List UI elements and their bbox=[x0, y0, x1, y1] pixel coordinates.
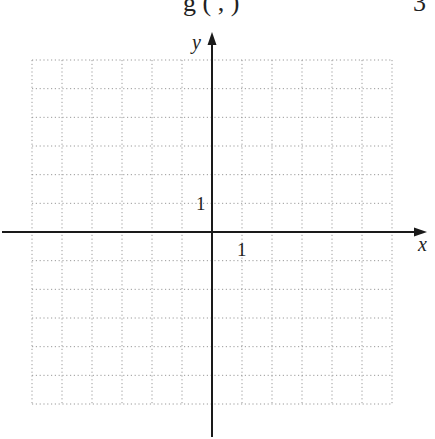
x-tick-label-1: 1 bbox=[237, 239, 247, 260]
coordinate-plane: y x 1 1 bbox=[0, 0, 435, 439]
y-tick-label-1: 1 bbox=[196, 193, 206, 214]
x-axis-label: x bbox=[417, 233, 427, 255]
y-axis-arrow-icon bbox=[208, 32, 217, 45]
y-axis-label: y bbox=[190, 31, 201, 54]
